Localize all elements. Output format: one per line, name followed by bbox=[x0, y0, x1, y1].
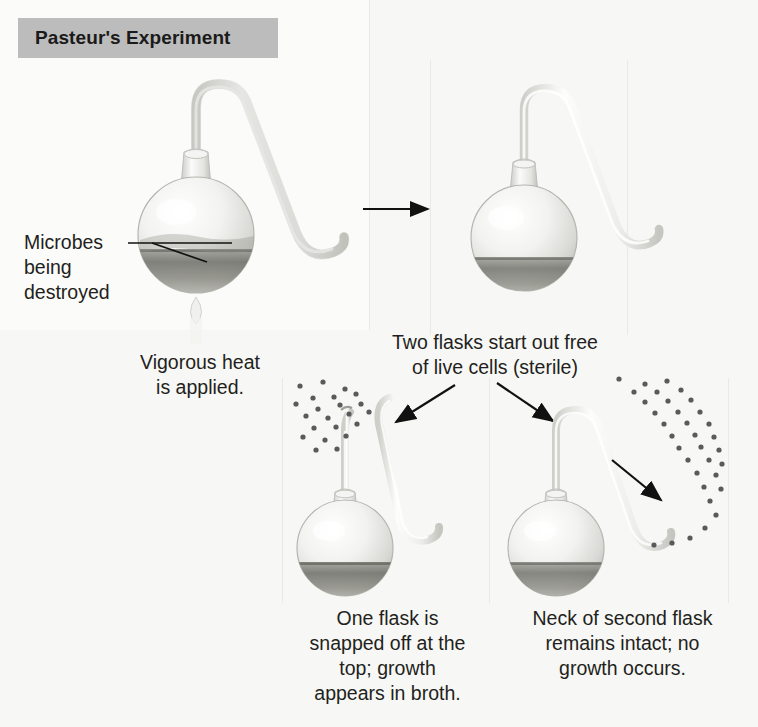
bulb-specular bbox=[313, 521, 345, 541]
caption-step3-line2: snapped off at the bbox=[280, 631, 495, 656]
detached-neck-piece bbox=[378, 398, 439, 541]
caption-step2: Two flasks start out free of live cells … bbox=[355, 330, 635, 380]
caption-step3-line1: One flask is bbox=[280, 606, 495, 631]
caption-step3-line4: appears in broth. bbox=[280, 681, 495, 706]
broth bbox=[130, 250, 265, 298]
broth-surface bbox=[465, 257, 587, 260]
broth-surface bbox=[292, 562, 402, 565]
broth-growth bbox=[292, 563, 402, 603]
caption-step2-line1: Two flasks start out free bbox=[355, 330, 635, 355]
neck-ring bbox=[546, 490, 566, 498]
caption-step4-line1: Neck of second flask bbox=[505, 606, 740, 631]
neck-ring bbox=[335, 490, 355, 498]
heat-column bbox=[190, 318, 202, 344]
arrow-to-intact-flask bbox=[497, 383, 553, 421]
bulb-specular bbox=[524, 521, 556, 541]
microbes-label-line2: being bbox=[24, 255, 134, 280]
page-title: Pasteur's Experiment bbox=[18, 27, 231, 49]
microbes-label-line1: Microbes bbox=[24, 230, 134, 255]
arrow-to-snapped-flask bbox=[396, 385, 455, 422]
bulb-specular bbox=[488, 206, 524, 230]
broth bbox=[503, 563, 613, 603]
caption-step3: One flask is snapped off at the top; gro… bbox=[280, 606, 495, 706]
figure-title-banner: Pasteur's Experiment bbox=[18, 18, 278, 58]
caption-step1-line2: is applied. bbox=[90, 375, 310, 400]
flask-sterile bbox=[465, 88, 659, 300]
broth bbox=[465, 258, 587, 300]
caption-step2-line2: of live cells (sterile) bbox=[355, 355, 635, 380]
caption-step3-line3: top; growth bbox=[280, 656, 495, 681]
flask-heated bbox=[130, 84, 344, 344]
figure-canvas: Pasteur's Experiment Microbes being dest… bbox=[0, 0, 758, 727]
broth-surface bbox=[503, 562, 613, 565]
caption-step1-line1: Vigorous heat bbox=[90, 350, 310, 375]
neck-ring bbox=[184, 150, 208, 159]
microbes-label-line3: destroyed bbox=[24, 280, 134, 305]
caption-step4: Neck of second flask remains intact; no … bbox=[505, 606, 740, 681]
flask-intact bbox=[503, 410, 671, 603]
caption-step4-line3: growth occurs. bbox=[505, 656, 740, 681]
caption-step1: Vigorous heat is applied. bbox=[90, 350, 310, 400]
microbes-label: Microbes being destroyed bbox=[24, 230, 134, 305]
neck-ring bbox=[513, 160, 535, 168]
caption-step4-line2: remains intact; no bbox=[505, 631, 740, 656]
bulb-specular bbox=[156, 199, 196, 225]
